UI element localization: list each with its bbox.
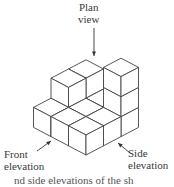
label-line: Side	[128, 147, 168, 159]
label-line: Plan	[78, 1, 99, 13]
label-line: elevation	[4, 160, 44, 172]
side-elevation-label: Side elevation	[128, 147, 168, 171]
plan-view-arrow-icon	[92, 28, 96, 56]
caption-text: nd side elevations of the sh	[14, 174, 133, 186]
front-elevation-label: Front elevation	[4, 148, 44, 172]
label-line: view	[78, 13, 99, 25]
plan-view-label: Plan view	[78, 1, 99, 25]
label-line: Front	[4, 148, 44, 160]
label-line: elevation	[128, 159, 168, 171]
